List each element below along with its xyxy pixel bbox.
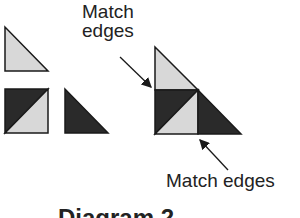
half-square-triangle-block (5, 89, 48, 133)
match-edges-label-top: Match edges (82, 2, 152, 40)
label-line-1: Match (82, 2, 152, 21)
diagram-caption: Diagram 2 (58, 208, 174, 218)
label-line-2: edges (82, 21, 152, 40)
bottom-arrow (200, 140, 228, 170)
assembled-triangle (155, 47, 241, 134)
light-triangle-piece (5, 27, 48, 71)
top-arrow (120, 57, 151, 87)
match-edges-label-bottom: Match edges (166, 171, 275, 190)
dark-triangle-piece (65, 89, 108, 133)
